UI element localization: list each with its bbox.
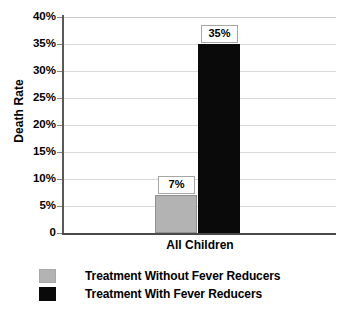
y-tick-mark [57,44,62,45]
y-tick-label: 0 [50,227,56,239]
y-tick-mark [57,206,62,207]
y-tick-label: 25% [33,92,56,104]
y-tick-label: 10% [33,173,56,185]
legend-label: Treatment Without Fever Reducers [85,269,280,283]
legend-item[interactable]: Treatment With Fever Reducers [39,285,329,303]
x-axis-category-label: All Children [64,238,336,252]
legend-swatch-icon [39,287,56,301]
bar-chart: Death Rate 40%35%30%25%20%15%10%5%0 All … [0,0,340,314]
legend-item[interactable]: Treatment Without Fever Reducers [39,267,329,285]
y-tick-mark [57,233,62,234]
bar-with-fever-reducers [198,44,240,233]
plot-area [64,17,336,233]
data-label: 35% [201,25,238,43]
legend-swatch-icon [39,269,56,283]
y-tick-label: 15% [33,146,56,158]
y-tick-mark [57,179,62,180]
y-tick-label: 40% [33,11,56,23]
y-tick-label: 30% [33,65,56,77]
y-axis-line [62,15,64,235]
y-tick-label: 35% [33,38,56,50]
legend-label: Treatment With Fever Reducers [85,287,262,301]
x-axis-line [62,233,336,235]
bar-without-fever-reducers [155,195,197,233]
y-tick-mark [57,152,62,153]
y-tick-mark [57,98,62,99]
y-tick-mark [57,17,62,18]
y-tick-label: 5% [39,200,56,212]
y-tick-mark [57,71,62,72]
gridline [64,17,336,18]
data-label: 7% [158,176,195,194]
y-tick-mark [57,125,62,126]
y-tick-label: 20% [33,119,56,131]
chart-legend: Treatment Without Fever ReducersTreatmen… [39,267,329,303]
